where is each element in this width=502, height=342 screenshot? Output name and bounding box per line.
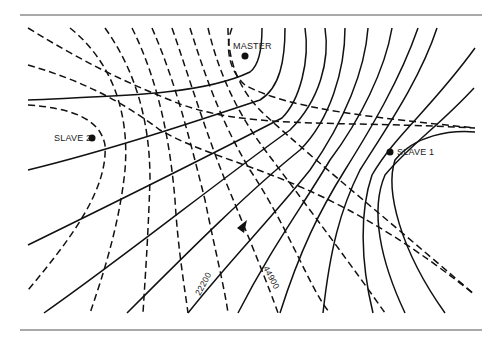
solid-line-value-label: 22200: [193, 270, 213, 297]
hyperbolic-position-diagram: MASTER SLAVE 2 SLAVE 1 22200 44900: [0, 0, 502, 342]
slave1-station-dot: [387, 149, 394, 156]
master-station-dot: [242, 53, 249, 60]
master-label: MASTER: [233, 41, 272, 51]
solid-lop-family: [28, 28, 475, 313]
slave2-label: SLAVE 2: [54, 133, 91, 143]
slave1-label: SLAVE 1: [397, 147, 434, 157]
